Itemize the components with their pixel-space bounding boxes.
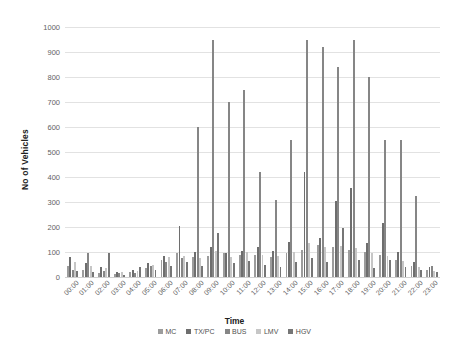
bar-hgv	[389, 260, 391, 278]
y-axis-tick-labels: 01002003004005006007008009001000	[0, 0, 65, 344]
bar-group	[362, 27, 378, 277]
y-axis-tick-label: 400	[47, 173, 60, 182]
bar-hgv	[201, 266, 203, 277]
bar-bus	[400, 140, 402, 278]
bar-bus	[212, 40, 214, 278]
bar-bus	[228, 102, 230, 277]
bar-hgv	[123, 275, 125, 278]
bar-group	[424, 27, 440, 277]
bar-group	[253, 27, 269, 277]
bar-group	[65, 27, 81, 277]
bar-group	[378, 27, 394, 277]
bar-group	[81, 27, 97, 277]
y-axis-tick-label: 800	[47, 73, 60, 82]
y-axis-tick-label: 500	[47, 148, 60, 157]
bar-hgv	[108, 253, 110, 277]
legend-swatch-icon	[158, 329, 163, 334]
bar-group	[237, 27, 253, 277]
bar-series-layer	[65, 27, 440, 277]
legend-label: MC	[166, 328, 177, 335]
legend-swatch-icon	[288, 329, 293, 334]
bar-hgv	[295, 262, 297, 277]
bar-bus	[368, 77, 370, 277]
legend-item-hgv[interactable]: HGV	[288, 328, 311, 335]
legend-item-tx-pc[interactable]: TX/PC	[186, 328, 214, 335]
bar-group	[206, 27, 222, 277]
y-axis-tick-label: 600	[47, 123, 60, 132]
x-axis-tick-labels: 00:0001:0002:0003:0004:0005:0006:0007:00…	[65, 279, 440, 319]
bar-bus	[322, 47, 324, 277]
bar-group	[315, 27, 331, 277]
y-axis-tick-label: 1000	[43, 23, 60, 32]
bar-group	[331, 27, 347, 277]
bar-group	[409, 27, 425, 277]
legend-label: LMV	[264, 328, 278, 335]
bar-group	[159, 27, 175, 277]
y-axis-tick-label: 700	[47, 98, 60, 107]
legend-item-mc[interactable]: MC	[158, 328, 176, 335]
bar-group	[284, 27, 300, 277]
bar-bus	[306, 40, 308, 278]
bar-hgv	[436, 272, 438, 277]
bar-hgv	[186, 262, 188, 277]
bar-hgv	[342, 228, 344, 277]
y-axis-tick-label: 200	[47, 223, 60, 232]
bar-hgv	[76, 271, 78, 277]
bar-hgv	[233, 263, 235, 277]
bar-hgv	[217, 233, 219, 277]
chart-legend: MCTX/PCBUSLMVHGV	[0, 328, 469, 335]
bar-group	[299, 27, 315, 277]
legend-swatch-icon	[225, 329, 230, 334]
bar-chart: No of Vehicles 0100200300400500600700800…	[0, 0, 469, 344]
plot-area	[65, 27, 440, 277]
legend-swatch-icon	[256, 329, 261, 334]
y-axis-tick-label: 900	[47, 48, 60, 57]
bar-hgv	[358, 260, 360, 278]
legend-item-bus[interactable]: BUS	[225, 328, 247, 335]
bar-group	[143, 27, 159, 277]
bar-hgv	[373, 268, 375, 277]
bar-group	[268, 27, 284, 277]
legend-item-lmv[interactable]: LMV	[256, 328, 278, 335]
y-axis-tick-label: 100	[47, 248, 60, 257]
bar-group	[174, 27, 190, 277]
x-axis-title: Time	[0, 316, 469, 326]
bar-hgv	[155, 270, 157, 278]
bar-hgv	[92, 272, 94, 277]
y-axis-tick-label: 0	[56, 273, 60, 282]
bar-hgv	[311, 258, 313, 277]
bar-group	[190, 27, 206, 277]
legend-label: HGV	[296, 328, 311, 335]
bar-hgv	[405, 267, 407, 277]
bar-hgv	[326, 262, 328, 277]
bar-hgv	[139, 267, 141, 277]
legend-label: TX/PC	[194, 328, 215, 335]
bar-hgv	[280, 267, 282, 277]
legend-label: BUS	[232, 328, 246, 335]
bar-bus	[243, 90, 245, 278]
bar-bus	[197, 127, 199, 277]
bar-hgv	[264, 265, 266, 278]
bar-group	[393, 27, 409, 277]
legend-swatch-icon	[186, 329, 191, 334]
bar-group	[221, 27, 237, 277]
bar-hgv	[248, 261, 250, 277]
bar-bus	[353, 40, 355, 278]
bar-hgv	[420, 270, 422, 278]
bar-group	[128, 27, 144, 277]
bar-group	[96, 27, 112, 277]
y-axis-tick-label: 300	[47, 198, 60, 207]
bar-hgv	[170, 266, 172, 277]
bar-group	[346, 27, 362, 277]
bar-bus	[415, 196, 417, 277]
bar-group	[112, 27, 128, 277]
